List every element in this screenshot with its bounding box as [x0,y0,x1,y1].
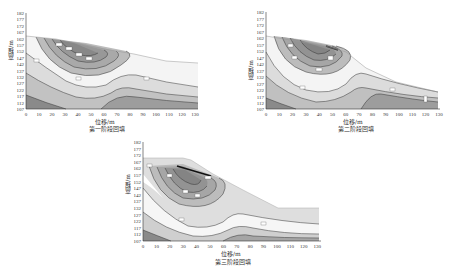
svg-text:162: 162 [134,166,142,171]
svg-text:167: 167 [257,30,265,35]
svg-text:107: 107 [17,107,25,112]
svg-text:137: 137 [17,69,25,74]
svg-text:177: 177 [134,147,142,152]
svg-text:147: 147 [257,56,265,61]
svg-text:10: 10 [37,112,43,117]
contour-plot-stage-2: 182177172167 162157152147 142137132127 1… [240,0,449,130]
y-axis-label-stage-2: 高程/m [246,60,255,80]
svg-text:132: 132 [17,75,25,80]
svg-text:130: 130 [191,112,199,117]
svg-text:142: 142 [257,62,265,67]
svg-text:112: 112 [134,232,142,237]
svg-text:112: 112 [257,101,265,106]
svg-text:20: 20 [167,244,173,249]
svg-text:110: 110 [409,112,417,117]
svg-text:117: 117 [134,226,142,231]
svg-text:162: 162 [17,37,25,42]
svg-text:157: 157 [257,43,265,48]
svg-text:177: 177 [257,17,265,22]
chart-panel-stage-2: 182177172167 162157152147 142137132127 1… [240,0,449,130]
svg-text:100: 100 [152,112,160,117]
svg-text:80: 80 [248,244,254,249]
svg-text:112: 112 [17,101,25,106]
svg-text:167: 167 [17,30,25,35]
svg-text:50: 50 [208,244,214,249]
y-axis-label-stage-1: 高程/m [6,40,15,60]
svg-text:172: 172 [134,153,142,158]
svg-text:90: 90 [141,112,147,117]
svg-text:157: 157 [134,173,142,178]
svg-text:100: 100 [273,244,281,249]
svg-text:172: 172 [17,24,25,29]
caption-stage-3: 第三阶段回填 [215,257,251,266]
svg-text:50: 50 [89,112,95,117]
chart-panel-stage-1: 182177172167 162157152147 142137132127 1… [0,0,225,130]
svg-text:100: 100 [395,112,403,117]
svg-text:107: 107 [134,239,142,244]
svg-text:10: 10 [154,244,160,249]
svg-text:0: 0 [25,112,28,117]
svg-text:147: 147 [17,56,25,61]
svg-text:137: 137 [134,199,142,204]
svg-text:157: 157 [17,43,25,48]
svg-text:132: 132 [257,75,265,80]
svg-text:122: 122 [257,88,265,93]
svg-text:40: 40 [317,112,323,117]
svg-text:162: 162 [257,36,265,41]
svg-text:40: 40 [76,112,82,117]
svg-text:132: 132 [134,206,142,211]
svg-text:137: 137 [257,69,265,74]
svg-text:152: 152 [17,49,25,54]
svg-text:30: 30 [63,112,69,117]
chart-panel-stage-3: 182177172167 162157152147 142137132127 1… [117,130,332,272]
svg-text:182: 182 [134,140,142,145]
svg-text:20: 20 [290,112,296,117]
svg-text:0: 0 [142,244,145,249]
svg-text:122: 122 [134,219,142,224]
svg-text:30: 30 [181,244,187,249]
svg-text:90: 90 [383,112,389,117]
svg-text:117: 117 [17,94,25,99]
svg-text:110: 110 [287,244,295,249]
svg-text:142: 142 [17,62,25,67]
svg-text:177: 177 [17,17,25,22]
svg-text:127: 127 [134,213,142,218]
svg-text:142: 142 [134,193,142,198]
svg-text:172: 172 [257,23,265,28]
svg-text:80: 80 [128,112,134,117]
svg-text:120: 120 [300,244,308,249]
svg-text:127: 127 [17,81,25,86]
svg-text:182: 182 [257,10,265,15]
svg-text:50: 50 [330,112,336,117]
svg-text:130: 130 [435,112,443,117]
svg-text:117: 117 [257,95,265,100]
svg-text:182: 182 [17,11,25,16]
svg-text:20: 20 [50,112,56,117]
caption-stage-2: 第二阶段回填 [338,124,374,133]
svg-text:70: 70 [115,112,121,117]
svg-text:10: 10 [277,112,283,117]
svg-text:122: 122 [17,88,25,93]
svg-text:120: 120 [422,112,430,117]
svg-text:147: 147 [134,186,142,191]
svg-text:110: 110 [165,112,173,117]
svg-text:152: 152 [134,180,142,185]
svg-text:40: 40 [194,244,200,249]
svg-text:107: 107 [257,107,265,112]
svg-text:152: 152 [257,49,265,54]
svg-text:90: 90 [261,244,267,249]
y-axis-label-stage-3: 高程/m [123,174,132,194]
svg-text:127: 127 [257,82,265,87]
svg-text:130: 130 [313,244,321,249]
svg-text:120: 120 [178,112,186,117]
svg-text:167: 167 [134,160,142,165]
svg-text:30: 30 [303,112,309,117]
contour-plot-stage-1: 182177172167 162157152147 142137132127 1… [0,0,225,130]
svg-text:80: 80 [370,112,376,117]
svg-text:0: 0 [265,112,268,117]
